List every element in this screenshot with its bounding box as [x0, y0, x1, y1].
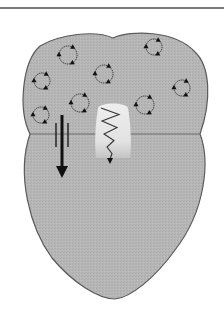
- body-outline: [23, 33, 208, 299]
- signal-plume: [95, 104, 131, 159]
- cell-diagram: [0, 0, 224, 318]
